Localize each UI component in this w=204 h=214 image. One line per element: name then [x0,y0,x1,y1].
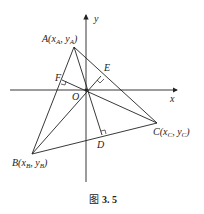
label-f: F [54,72,62,83]
label-b: B(xB, yB) [12,157,48,170]
origin-point [85,89,88,92]
label-d: D [96,139,105,150]
triangle-abc [32,47,157,154]
label-a: A(xA, yA) [41,33,78,46]
orthocenter-diagram: A(xA, yA) B(xB, yB) C(xC, yC) D E F O x … [0,0,204,214]
label-e: E [103,62,110,73]
label-c: C(xC, yC) [153,126,190,139]
figure-caption: 图3. 5 [89,194,117,205]
label-x-axis: x [169,93,175,104]
altitude-b-e [32,76,101,154]
label-y-axis: y [93,13,99,24]
label-o: O [72,91,79,102]
